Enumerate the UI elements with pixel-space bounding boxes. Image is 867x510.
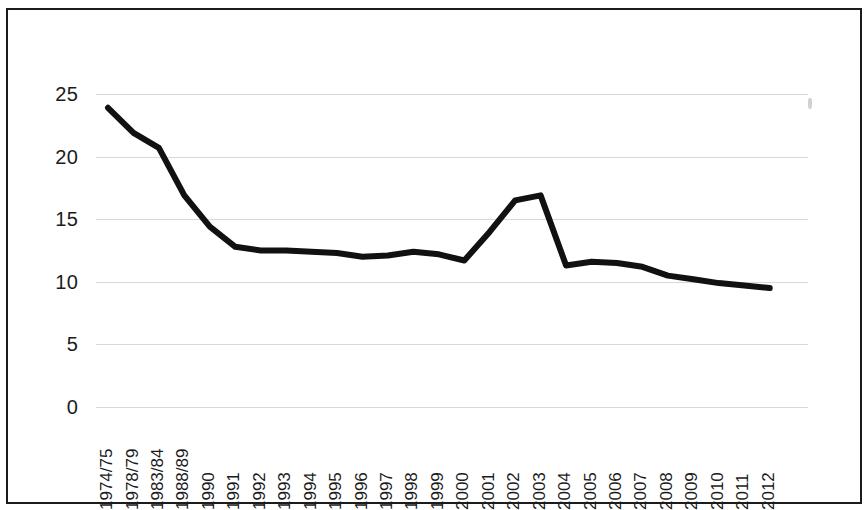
x-tick-label: 1983/84 [149, 449, 166, 510]
x-tick-label: 1978/79 [124, 449, 141, 510]
x-tick-label: 2007 [632, 472, 649, 510]
x-tick-label: 1988/89 [174, 449, 191, 510]
x-tick-label: 2012 [760, 472, 777, 510]
x-tick-label: 2000 [454, 472, 471, 510]
data-series-line [96, 69, 808, 407]
x-tick-label: 1997 [378, 472, 395, 510]
x-tick-label: 1995 [327, 472, 344, 510]
y-tick-label: 0 [26, 397, 78, 417]
x-tick-label: 1999 [429, 472, 446, 510]
x-tick-label: 2011 [734, 473, 751, 510]
x-tick-label: 2009 [683, 472, 700, 510]
x-tick-label: 2006 [607, 472, 624, 510]
x-tick-label: 1990 [200, 472, 217, 510]
y-tick-label: 10 [26, 272, 78, 292]
y-tick-label: 15 [26, 209, 78, 229]
y-axis-labels: 0510152025 [26, 69, 78, 407]
x-axis-labels: 1974/751978/791983/841988/89199019911992… [96, 410, 808, 510]
scan-artifact-speck [808, 98, 812, 109]
x-tick-label: 2005 [582, 472, 599, 510]
y-tick-label: 5 [26, 334, 78, 354]
x-tick-label: 1992 [251, 472, 268, 510]
x-tick-label: 2004 [556, 472, 573, 510]
x-tick-label: 2001 [480, 472, 497, 510]
y-tick-label: 20 [26, 147, 78, 167]
x-tick-label: 1996 [353, 472, 370, 510]
series-polyline [108, 108, 770, 288]
x-tick-label: 1974/75 [98, 449, 115, 510]
x-tick-label: 2008 [658, 472, 675, 510]
x-tick-label: 2010 [709, 472, 726, 510]
x-tick-label: 1998 [403, 472, 420, 510]
x-tick-label: 2002 [505, 472, 522, 510]
x-tick-label: 2003 [531, 472, 548, 510]
y-tick-label: 25 [26, 84, 78, 104]
x-tick-label: 1993 [276, 472, 293, 510]
chart-frame: 0510152025 1974/751978/791983/841988/891… [6, 8, 862, 504]
gridline [96, 407, 808, 408]
plot-area [96, 69, 808, 407]
x-tick-label: 1991 [225, 472, 242, 510]
x-tick-label: 1994 [302, 472, 319, 510]
